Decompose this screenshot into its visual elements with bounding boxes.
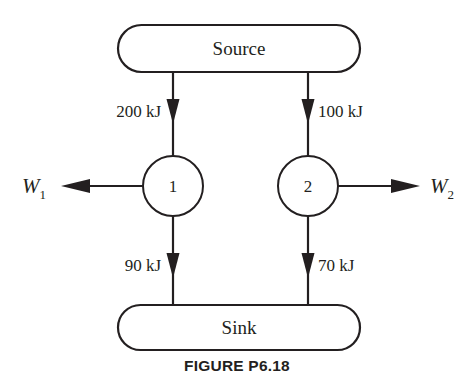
- heat-label-engine1-to-sink: 90 kJ: [125, 256, 162, 275]
- source-reservoir-label: Source: [213, 38, 266, 59]
- figure-caption: FIGURE P6.18: [0, 357, 474, 375]
- heat-arrow-engine1-to-sink-head: [167, 253, 180, 278]
- work-label-w2: W2: [430, 174, 454, 202]
- work-arrow-w1-head: [61, 179, 90, 193]
- engine-2-label: 2: [304, 177, 313, 196]
- work-label-w1: W1: [22, 174, 46, 202]
- heat-label-source-to-engine1: 200 kJ: [116, 102, 161, 121]
- heat-arrow-source-to-engine2-head: [302, 99, 315, 124]
- figure-container: Source Sink 1 2 200 kJ 100 kJ 90 kJ 70 k…: [0, 0, 474, 389]
- engine-1-label: 1: [169, 177, 178, 196]
- sink-reservoir-label: Sink: [222, 317, 257, 338]
- heat-label-engine2-to-sink: 70 kJ: [318, 256, 355, 275]
- thermodynamic-cycle-diagram: Source Sink 1 2 200 kJ 100 kJ 90 kJ 70 k…: [0, 0, 474, 389]
- work-label-w2-subscript: 2: [448, 187, 455, 202]
- heat-arrow-source-to-engine1-head: [167, 99, 180, 124]
- heat-label-source-to-engine2: 100 kJ: [318, 102, 363, 121]
- work-arrow-w2-head: [391, 179, 420, 193]
- heat-arrow-engine2-to-sink-head: [302, 253, 315, 278]
- work-label-w1-subscript: 1: [40, 187, 47, 202]
